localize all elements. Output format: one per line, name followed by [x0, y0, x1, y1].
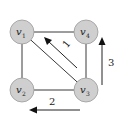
arrow-3: 3	[99, 37, 115, 85]
arrow-2-label: 2	[49, 96, 55, 107]
arrow-2: 2	[29, 96, 80, 114]
node-v3-sub: 3	[86, 90, 90, 97]
node-v4-sub: 4	[86, 32, 90, 39]
node-v1-sub: 1	[22, 32, 26, 39]
arrow-3-label: 3	[108, 57, 114, 68]
node-v3: v 3	[74, 78, 98, 102]
arrow-1: 1	[44, 37, 77, 68]
node-v2-sub: 2	[22, 90, 26, 97]
node-v4: v 4	[74, 20, 98, 44]
node-v1: v 1	[10, 20, 34, 44]
arrow-3-head-icon	[99, 37, 106, 45]
edge-v1-v3	[22, 32, 86, 90]
node-v2: v 2	[10, 78, 34, 102]
arrow-1-label: 1	[60, 38, 73, 50]
arrow-2-head-icon	[29, 107, 37, 114]
graph-diagram: v 1 v 4 v 2 v 3 1 3 2	[0, 0, 122, 120]
